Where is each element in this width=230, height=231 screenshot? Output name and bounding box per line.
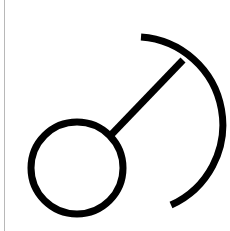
- circle-line-arc-diagram: [0, 0, 230, 231]
- connector-line: [110, 60, 183, 136]
- node-circle: [31, 122, 123, 214]
